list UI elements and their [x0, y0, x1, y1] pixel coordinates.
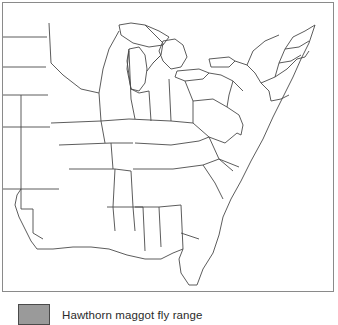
gulf-of-mexico-mask: [3, 247, 203, 291]
water-and-outside-masks: [3, 3, 333, 291]
canada-mask: [3, 3, 333, 19]
legend-swatch-range: [18, 304, 50, 325]
lake-superior: [119, 23, 169, 47]
texas-outside-mask: [3, 123, 107, 251]
plains-outside-mask: [3, 17, 49, 121]
map-frame: [2, 2, 334, 292]
range-map-figure: Hawthorn maggot fly range: [0, 0, 338, 325]
map-legend: Hawthorn maggot fly range: [18, 304, 203, 325]
legend-label-range: Hawthorn maggot fly range: [62, 309, 203, 321]
us-range-map: [3, 3, 333, 291]
northeast-ocean-wedge: [303, 15, 333, 39]
